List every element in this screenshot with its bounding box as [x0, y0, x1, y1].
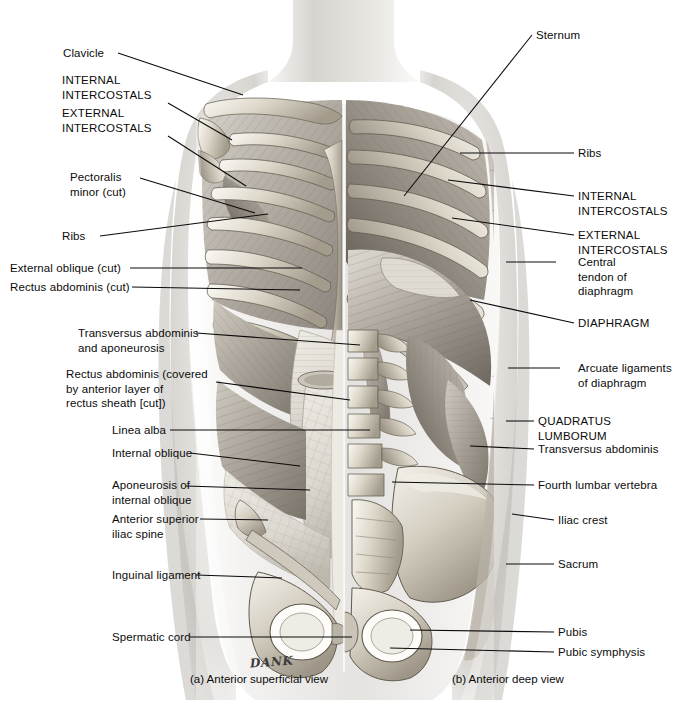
label-central-tendon-diaphragm: Central tendon of diaphragm — [578, 255, 633, 299]
label-diaphragm: DIAPHRAGM — [578, 316, 649, 331]
label-sternum: Sternum — [536, 28, 580, 43]
label-clavicle: Clavicle — [63, 46, 104, 61]
label-rectus-abdominis-cut: Rectus abdominis (cut) — [10, 280, 130, 295]
label-internal-oblique: Internal oblique — [112, 446, 192, 461]
label-fourth-lumbar-vertebra: Fourth lumbar vertebra — [538, 478, 657, 493]
caption-a: (a) Anterior superficial view — [190, 672, 328, 686]
superficial-view-artwork — [196, 98, 350, 700]
caption-b: (b) Anterior deep view — [452, 672, 564, 686]
label-iliac-crest: Iliac crest — [558, 513, 608, 528]
label-pectoralis-minor-cut: Pectoralis minor (cut) — [70, 170, 126, 199]
label-anterior-superior-iliac-spine: Anterior superior iliac spine — [112, 512, 199, 541]
label-transversus-abdominis-right: Transversus abdominis — [538, 442, 659, 457]
label-aponeurosis-internal-oblique: Aponeurosis of internal oblique — [112, 478, 192, 507]
label-quadratus-lumborum: QUADRATUS LUMBORUM — [538, 414, 682, 443]
label-arcuate-ligaments: Arcuate ligaments of diaphragm — [578, 361, 672, 390]
label-ribs-right: Ribs — [578, 146, 601, 161]
label-transversus-abdominis-aponeurosis: Transversus abdominis and aponeurosis — [78, 326, 199, 355]
anatomy-plate: ClavicleINTERNAL INTERCOSTALSEXTERNAL IN… — [0, 0, 682, 719]
label-internal-intercostals-right: INTERNAL INTERCOSTALS — [578, 189, 668, 218]
label-inguinal-ligament: Inguinal ligament — [112, 568, 201, 583]
deep-view-artwork — [344, 100, 509, 700]
label-pubic-symphysis: Pubic symphysis — [558, 645, 645, 660]
label-sacrum: Sacrum — [558, 557, 598, 572]
label-pubis: Pubis — [558, 625, 587, 640]
label-rectus-abdominis-covered: Rectus abdominis (covered by anterior la… — [66, 367, 208, 411]
label-internal-intercostals-left: INTERNAL INTERCOSTALS — [62, 73, 152, 102]
label-ribs-left: Ribs — [62, 229, 85, 244]
label-external-intercostals-right: EXTERNAL INTERCOSTALS — [578, 228, 668, 257]
label-spermatic-cord: Spermatic cord — [112, 630, 191, 645]
label-linea-alba: Linea alba — [112, 423, 166, 438]
label-external-intercostals-left: EXTERNAL INTERCOSTALS — [62, 106, 152, 135]
label-external-oblique-cut: External oblique (cut) — [10, 261, 121, 276]
